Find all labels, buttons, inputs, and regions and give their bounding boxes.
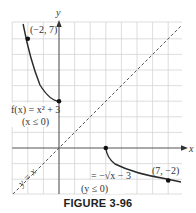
inverse-label: = −√x − 3: [91, 170, 131, 181]
point-neg2-7: [26, 37, 31, 42]
inverse-domain-label: (y ≤ 0): [81, 183, 108, 195]
identity-line-label: y = x: [15, 166, 38, 189]
figure-caption: FIGURE 3-96: [0, 197, 196, 209]
point-3-0: [104, 146, 109, 151]
point-0-3: [57, 99, 62, 104]
f-domain-label: (x ≤ 0): [22, 116, 49, 128]
curve-f: [23, 24, 59, 101]
f-label: f(x) = x² + 3: [11, 104, 60, 116]
y-axis-label: y: [55, 7, 61, 18]
graph: y x (−2, 7) (7, −2) f(x) = x² + 3 (x ≤ 0…: [0, 0, 196, 213]
point-7-neg2: [166, 178, 171, 183]
point-b-label: (7, −2): [152, 165, 179, 177]
x-axis-arrow-icon: [181, 145, 188, 150]
point-a-label: (−2, 7): [30, 24, 57, 36]
x-axis-label: x: [188, 143, 194, 154]
